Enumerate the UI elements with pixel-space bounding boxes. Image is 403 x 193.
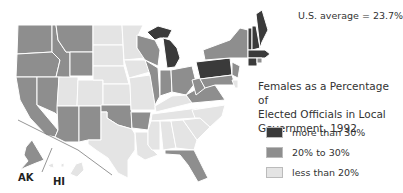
state-arkansas — [131, 112, 151, 130]
state-indiana — [160, 70, 172, 96]
legend-swatch-light — [266, 167, 283, 178]
state-wyoming — [70, 52, 93, 76]
legend-item-high: more than 30% — [266, 122, 365, 142]
state-michigan-upper — [147, 26, 172, 40]
state-hawaii-3 — [70, 162, 84, 177]
legend-item-low: less than 20% — [266, 162, 365, 182]
state-connecticut — [248, 58, 257, 66]
map-legend: more than 30% 20% to 30% less than 20% — [266, 122, 365, 182]
state-hawaii-1 — [48, 163, 54, 168]
state-oregon — [16, 52, 60, 77]
state-new-york — [203, 28, 248, 60]
state-hawaii-2 — [61, 163, 64, 167]
alaska-label: AK — [18, 172, 34, 183]
state-new-mexico — [79, 106, 101, 142]
hawaii-label: HI — [53, 176, 65, 187]
state-vermont — [248, 28, 252, 50]
state-south-dakota — [93, 45, 124, 66]
state-new-jersey — [232, 62, 240, 78]
legend-label: 20% to 30% — [292, 147, 350, 158]
state-north-dakota — [93, 25, 123, 45]
state-massachusetts — [248, 50, 270, 58]
legend-label: less than 20% — [292, 167, 359, 178]
state-michigan-lower — [163, 38, 180, 68]
legend-label: more than 30% — [292, 127, 365, 138]
state-kansas — [103, 84, 131, 105]
map-title-line-1: Females as a Percentage of — [258, 79, 393, 107]
legend-swatch-mid — [266, 147, 283, 158]
us-average-note: U.S. average = 23.7% — [298, 10, 403, 21]
state-colorado — [77, 80, 103, 106]
legend-swatch-dark — [266, 127, 283, 138]
map-title-line-2: Elected Officials in Local — [258, 107, 393, 121]
state-utah — [57, 77, 78, 106]
state-arizona — [55, 106, 79, 142]
state-alaska — [20, 140, 44, 170]
state-florida — [165, 150, 208, 182]
state-mississippi — [148, 121, 160, 150]
state-rhode-island — [257, 58, 262, 63]
legend-item-mid: 20% to 30% — [266, 142, 365, 162]
state-washington — [17, 25, 52, 54]
